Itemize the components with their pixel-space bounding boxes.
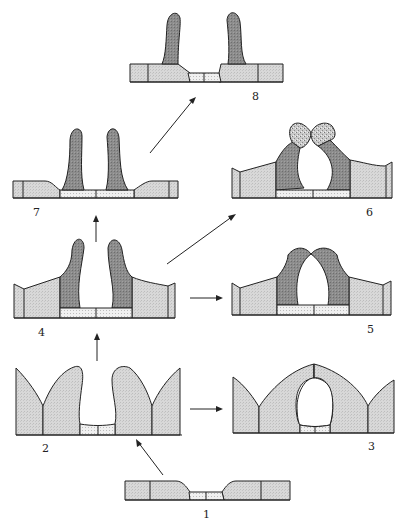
- stage-label: 8: [252, 90, 259, 103]
- stage-3: 3: [233, 364, 394, 453]
- arrowhead-icon: [216, 295, 223, 301]
- stage-8: 8: [130, 13, 283, 103]
- stage-label: 4: [38, 326, 45, 339]
- arrow-7-to-8: [150, 97, 196, 153]
- arrow-2-to-4: [94, 333, 100, 361]
- stage-7: 7: [13, 129, 178, 219]
- stage-2: 2: [16, 366, 182, 455]
- arrow-1-to-2: [136, 439, 163, 475]
- arrowhead-icon: [94, 333, 100, 340]
- stage-4: 4: [14, 239, 175, 339]
- arrowhead-icon: [216, 406, 223, 412]
- stage-1: 1: [125, 481, 290, 521]
- arrow-4-to-5: [190, 295, 223, 301]
- stage-diagram: 8 7 6 4: [0, 0, 406, 522]
- stage-6: 6: [232, 123, 392, 219]
- arrow-4-to-6: [167, 214, 236, 264]
- arrow-2-to-3: [190, 406, 223, 412]
- stage-label: 1: [203, 508, 210, 521]
- stage-label: 6: [366, 206, 373, 219]
- stage-label: 2: [42, 442, 49, 455]
- stage-label: 7: [33, 206, 40, 219]
- stage-label: 5: [367, 323, 374, 336]
- stage-5: 5: [232, 248, 391, 336]
- arrowhead-icon: [228, 214, 236, 221]
- stage-label: 3: [368, 440, 375, 453]
- arrowhead-icon: [93, 215, 99, 222]
- arrow-4-to-7: [93, 215, 99, 242]
